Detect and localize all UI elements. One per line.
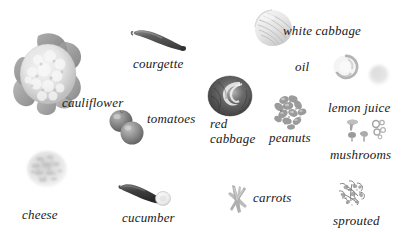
carrots-label: carrots	[253, 191, 291, 206]
sprouted-label: sprouted	[333, 214, 380, 229]
peanuts-icon	[270, 92, 310, 130]
carrots-icon	[226, 184, 252, 214]
courgette-icon	[130, 26, 188, 52]
food-items-figure: cauliflower courgette	[0, 0, 415, 232]
red-cabbage-icon	[206, 74, 254, 118]
white-cabbage-label: white cabbage	[283, 24, 361, 39]
oil-label: oil	[295, 60, 309, 75]
red-cabbage-label-line1: red	[210, 116, 227, 131]
cucumber-label: cucumber	[122, 211, 175, 226]
cheese-label: cheese	[22, 208, 58, 223]
oil-icon	[330, 52, 360, 82]
red-cabbage-label: red cabbage	[210, 117, 272, 146]
cauliflower-label: cauliflower	[62, 96, 123, 111]
mushrooms-icon	[345, 118, 389, 148]
mushrooms-label: mushrooms	[330, 148, 391, 163]
cheese-icon	[22, 148, 72, 190]
sprouted-icon	[335, 178, 371, 210]
courgette-label: courgette	[133, 57, 183, 72]
peanuts-label: peanuts	[269, 131, 311, 146]
red-cabbage-label-line2: cabbage	[210, 131, 255, 146]
lemon-juice-label: lemon juice	[328, 101, 390, 116]
lemon-juice-icon	[366, 62, 392, 88]
tomatoes-label: tomatoes	[147, 112, 196, 127]
tomatoes-icon	[108, 108, 148, 146]
cucumber-icon	[118, 182, 174, 206]
